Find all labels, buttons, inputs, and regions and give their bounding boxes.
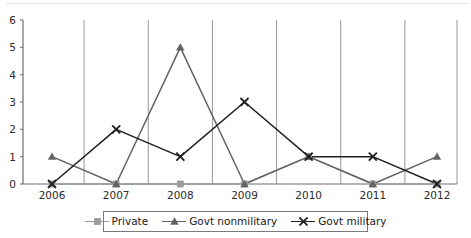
x-axis-tick-label: 2010 — [295, 189, 322, 201]
legend-marker-shape — [170, 217, 178, 224]
x-axis-ticks: 2006200720082009201020112012 — [39, 189, 451, 201]
chart-legend: PrivateGovt nonmilitaryGovt military — [103, 211, 368, 232]
y-axis-tick-label: 5 — [9, 41, 16, 53]
gridlines — [84, 20, 457, 184]
legend-item-label: Govt military — [318, 216, 386, 227]
y-axis-ticks: 0123456 — [9, 14, 23, 190]
data-point-marker — [433, 152, 441, 159]
legend-item[interactable]: Govt military — [291, 216, 386, 227]
legend-item-label: Private — [112, 216, 149, 227]
legend-marker-icon — [85, 217, 109, 227]
line-chart-plot: 0123456 2006200720082009201020112012 — [0, 0, 471, 238]
legend-item-label: Govt nonmilitary — [189, 216, 277, 227]
chart-container: 0123456 2006200720082009201020112012 Pri… — [0, 0, 471, 238]
legend-item[interactable]: Private — [85, 216, 149, 227]
data-point-marker — [112, 125, 120, 133]
legend-marker-icon — [162, 217, 186, 227]
x-axis-tick-label: 2011 — [359, 189, 386, 201]
series-lines — [52, 47, 437, 184]
series-line — [52, 47, 437, 184]
y-axis-tick-label: 0 — [9, 178, 16, 190]
data-point-marker — [176, 43, 184, 50]
legend-marker-icon — [291, 217, 315, 227]
series-markers — [48, 43, 441, 188]
legend-marker-shape — [300, 217, 308, 225]
legend-marker-shape — [94, 218, 101, 225]
y-axis-tick-label: 6 — [9, 14, 16, 26]
series-line — [52, 102, 437, 184]
x-axis-tick-label: 2008 — [167, 189, 194, 201]
y-axis-tick-label: 4 — [9, 69, 16, 81]
axis-lines — [23, 20, 457, 184]
data-point-marker — [241, 98, 249, 106]
data-point-marker — [48, 152, 56, 159]
data-point-marker — [176, 153, 184, 161]
y-axis-tick-label: 2 — [9, 123, 16, 135]
legend-item[interactable]: Govt nonmilitary — [162, 216, 277, 227]
x-axis-tick-label: 2009 — [231, 189, 258, 201]
x-axis-tick-label: 2007 — [103, 189, 130, 201]
data-point-marker — [177, 181, 184, 188]
x-axis-tick-label: 2006 — [39, 189, 66, 201]
y-axis-tick-label: 1 — [9, 151, 16, 163]
x-axis-tick-label: 2012 — [424, 189, 451, 201]
y-axis-tick-label: 3 — [9, 96, 16, 108]
